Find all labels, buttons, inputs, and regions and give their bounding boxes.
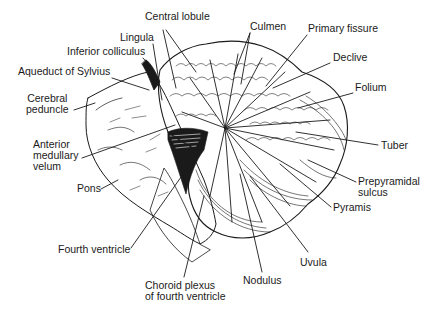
label-declive: Declive	[333, 52, 367, 63]
label-inferior-colliculus: Inferior colliculus	[67, 46, 145, 57]
leader-lines	[74, 30, 378, 277]
label-choroid-plexus: Choroid plexus of fourth ventricle	[145, 280, 226, 302]
inferior-colliculus-shape	[142, 60, 160, 90]
label-aqueduct-of-sylvius: Aqueduct of Sylvius	[18, 66, 110, 77]
label-tuber: Tuber	[381, 140, 408, 151]
label-lingula: Lingula	[120, 32, 154, 43]
inferior-lobules	[196, 96, 346, 232]
label-culmen: Culmen	[250, 21, 286, 32]
label-pons: Pons	[77, 183, 101, 194]
label-anterior-medullary-velum: Anterior medullary velum	[33, 139, 79, 172]
label-pyramis: Pyramis	[333, 202, 371, 213]
label-prepyramidal-sulcus: Prepyramidal sulcus	[358, 176, 420, 198]
cerebellum-diagram: Central lobule Culmen Primary fissure Li…	[0, 0, 441, 312]
label-folium: Folium	[355, 82, 387, 93]
label-uvula: Uvula	[300, 257, 327, 268]
label-fourth-ventricle: Fourth ventricle	[58, 244, 130, 255]
label-nodulus: Nodulus	[243, 275, 282, 286]
label-central-lobule: Central lobule	[145, 11, 210, 22]
label-cerebral-peduncle: Cerebral peduncle	[26, 93, 69, 115]
label-primary-fissure: Primary fissure	[308, 23, 378, 34]
